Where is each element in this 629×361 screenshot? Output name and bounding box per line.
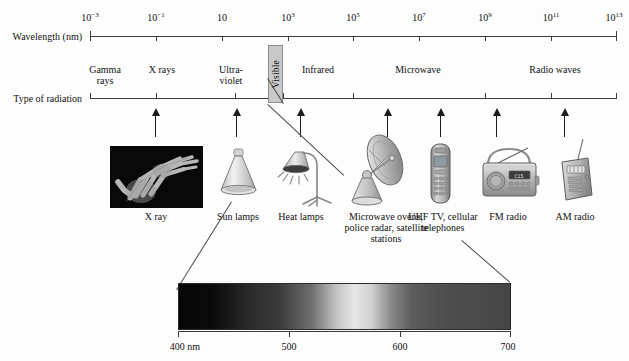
caption-am-radio: AM radio bbox=[554, 211, 596, 222]
radiation-axis-left-cap bbox=[90, 93, 91, 99]
pointer-arrow-fm-radio bbox=[496, 115, 497, 137]
pointer-arrow-sun-lamps bbox=[236, 115, 237, 137]
caption-x-ray: X ray bbox=[145, 211, 168, 222]
xray-hand-photo bbox=[110, 146, 203, 208]
leader-cellphone-to-spectrum bbox=[461, 240, 510, 283]
wavelength-tick-8 bbox=[616, 36, 617, 41]
radiation-divider-0 bbox=[156, 93, 157, 98]
cell-phone-icon bbox=[424, 141, 458, 210]
visible-spectrum-axis-line bbox=[178, 331, 511, 332]
radiation-band-gamma-rays: Gamma rays bbox=[89, 64, 121, 86]
wavelength-tick-4 bbox=[353, 36, 354, 41]
xray-hand-image bbox=[110, 146, 203, 208]
visible-spectrum-label-500: 500 bbox=[282, 341, 297, 352]
svg-text:C1S: C1S bbox=[514, 174, 523, 180]
am-radio-icon bbox=[552, 137, 598, 209]
radiation-band-infrared: Infrared bbox=[302, 64, 334, 75]
radiation-band-ultraviolet: Ultra- violet bbox=[219, 64, 243, 86]
visible-spectrum-label-400: 400 nm bbox=[170, 341, 200, 352]
pointer-arrow-x-ray bbox=[155, 115, 156, 137]
visible-spectrum-bar bbox=[178, 283, 511, 330]
wavelength-tick-label-7: 1011 bbox=[543, 12, 560, 23]
wavelength-tick-label-2: 10 bbox=[217, 12, 227, 23]
wavelength-tick-label-6: 109 bbox=[478, 12, 492, 23]
radiation-divider-5 bbox=[485, 93, 486, 98]
leader-sunlamp-to-spectrum bbox=[176, 201, 232, 290]
radiation-band-x-rays: X rays bbox=[149, 64, 175, 75]
visible-spectrum-tick-700 bbox=[510, 331, 511, 337]
radiation-divider-6 bbox=[551, 93, 552, 98]
visible-spectrum-label-700: 700 bbox=[501, 341, 516, 352]
visible-band-label: Visible bbox=[268, 45, 283, 103]
radiation-axis-label: Type of radiation bbox=[13, 93, 82, 104]
wavelength-axis-label: Wavelength (nm) bbox=[13, 31, 82, 42]
electromagnetic-spectrum-figure: Wavelength (nm) 10−3 10−1 10 103 105 107… bbox=[0, 0, 629, 361]
sun-lamp-icon bbox=[216, 146, 261, 205]
caption-fm-radio: FM radio bbox=[489, 211, 527, 222]
visible-spectrum-tick-500 bbox=[289, 331, 290, 337]
radiation-axis-line bbox=[90, 98, 617, 99]
wavelength-tick-2 bbox=[222, 36, 223, 41]
wavelength-tick-5 bbox=[419, 36, 420, 41]
wavelength-tick-1 bbox=[156, 36, 157, 41]
radiation-divider-1 bbox=[235, 93, 236, 98]
wavelength-tick-label-8: 1013 bbox=[606, 12, 623, 23]
pointer-arrow-am-radio bbox=[564, 115, 565, 137]
radiation-divider-3 bbox=[283, 93, 284, 98]
wavelength-tick-label-3: 103 bbox=[281, 12, 295, 23]
visible-spectrum-label-600: 600 bbox=[393, 341, 408, 352]
wavelength-tick-label-0: 10−3 bbox=[81, 12, 98, 23]
wavelength-tick-7 bbox=[551, 36, 552, 41]
caption-uhf-cellular: UHF TV, cellular telephones bbox=[395, 211, 491, 233]
visible-spectrum-tick-600 bbox=[400, 331, 401, 337]
wavelength-tick-3 bbox=[288, 36, 289, 41]
radiation-band-microwave: Microwave bbox=[395, 64, 441, 75]
wavelength-tick-label-1: 10−1 bbox=[147, 12, 164, 23]
caption-heat-lamps: Heat lamps bbox=[253, 211, 349, 222]
fm-radio-icon: C1S bbox=[478, 143, 540, 207]
radiation-divider-4 bbox=[353, 93, 354, 98]
wavelength-tick-label-4: 105 bbox=[346, 12, 360, 23]
satellite-dish-icon bbox=[345, 133, 417, 212]
radiation-axis-right-cap bbox=[616, 93, 617, 99]
heat-lamp-icon bbox=[275, 140, 337, 212]
wavelength-tick-label-5: 107 bbox=[412, 12, 426, 23]
pointer-arrow-uhf-cellular bbox=[440, 115, 441, 137]
wavelength-tick-6 bbox=[485, 36, 486, 41]
radiation-band-radio-waves: Radio waves bbox=[529, 64, 580, 75]
wavelength-tick-0 bbox=[90, 36, 91, 41]
visible-spectrum-tick-400 bbox=[178, 331, 179, 337]
